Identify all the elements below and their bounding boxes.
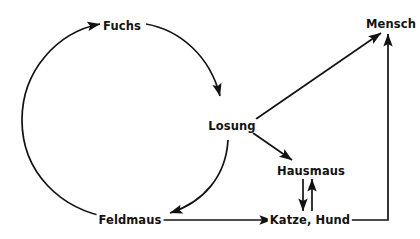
edge-losung-to-hausmaus	[253, 133, 292, 160]
edge-feldmaus-to-fuchs	[22, 24, 112, 218]
node-losung: Losung	[206, 120, 257, 133]
edge-losung-to-mensch	[256, 33, 381, 119]
edge-fuchs-to-losung	[146, 24, 220, 96]
node-feldmaus: Feldmaus	[97, 214, 164, 227]
diagram-canvas: Fuchs Losung Mensch Hausmaus Katze, Hund…	[0, 0, 420, 239]
node-fuchs: Fuchs	[101, 20, 143, 33]
node-hausmaus: Hausmaus	[275, 165, 347, 178]
node-katze-hund: Katze, Hund	[268, 214, 352, 227]
edge-losung-to-feldmaus	[170, 140, 228, 213]
node-mensch: Mensch	[364, 18, 418, 31]
edge-katzehund-to-mensch	[345, 34, 388, 220]
